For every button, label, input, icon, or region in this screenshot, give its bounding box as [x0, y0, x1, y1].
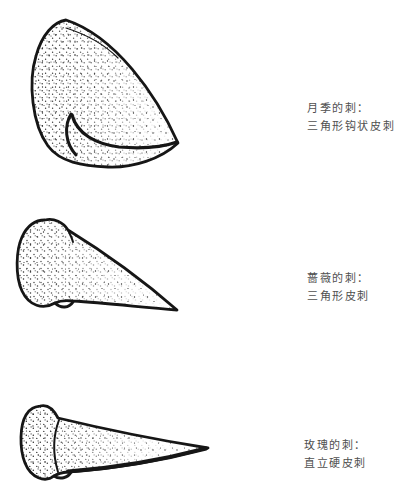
caption-desc-line: 直立硬皮刺 [304, 455, 367, 473]
figure-hooked-prickle [20, 12, 188, 174]
caption-name-line: 月季的刺： [307, 100, 395, 118]
caption-desc-line: 三角形皮刺 [307, 288, 370, 306]
caption-name-line: 玫瑰的刺： [304, 437, 367, 455]
caption-desc-line: 三角形钩状皮刺 [307, 118, 395, 136]
caption-name-line: 蔷薇的刺： [307, 270, 370, 288]
erect-prickle-drawing [18, 398, 214, 490]
caption-triangular-prickle: 蔷薇的刺： 三角形皮刺 [307, 270, 370, 306]
caption-erect-prickle: 玫瑰的刺： 直立硬皮刺 [304, 437, 367, 473]
triangular-prickle-drawing [15, 214, 185, 324]
figure-erect-prickle [18, 398, 214, 494]
figure-triangular-prickle [15, 214, 185, 328]
caption-hooked-prickle: 月季的刺： 三角形钩状皮刺 [307, 100, 395, 136]
hooked-prickle-drawing [20, 12, 188, 170]
illustration-page: 月季的刺： 三角形钩状皮刺 蔷薇的刺： 三角形皮刺 玫瑰的刺： 直立硬皮刺 [0, 0, 400, 502]
